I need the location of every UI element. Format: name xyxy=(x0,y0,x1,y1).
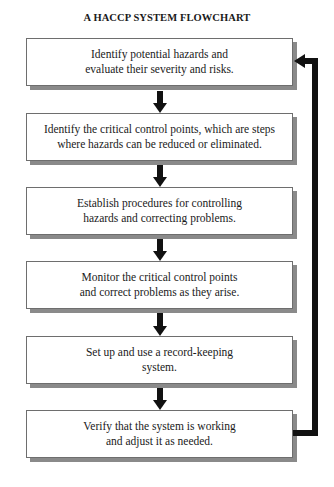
step-4-text: Monitor the critical control points and … xyxy=(80,270,240,300)
step-6-box: Verify that the system is working and ad… xyxy=(26,410,293,458)
down-arrow-icon xyxy=(155,239,165,261)
step-1-text: Identify potential hazards and evaluate … xyxy=(85,47,234,77)
step-2-box: Identify the critical control points, wh… xyxy=(26,113,293,161)
step-1-box: Identify potential hazards and evaluate … xyxy=(26,38,293,86)
down-arrow-icon xyxy=(155,91,165,113)
step-3-box: Establish procedures for controlling haz… xyxy=(26,187,293,235)
feedback-line-vertical xyxy=(312,58,318,436)
down-arrow-icon xyxy=(155,313,165,336)
flowchart-title: A HACCP SYSTEM FLOWCHART xyxy=(0,12,334,23)
step-3-text: Establish procedures for controlling haz… xyxy=(77,196,242,226)
left-arrow-icon xyxy=(294,54,305,68)
step-2-text: Identify the critical control points, wh… xyxy=(44,122,275,152)
step-5-box: Set up and use a record-keeping system. xyxy=(26,336,293,384)
down-arrow-icon xyxy=(155,388,165,410)
down-arrow-icon xyxy=(155,165,165,187)
step-5-text: Set up and use a record-keeping system. xyxy=(86,345,233,375)
step-4-box: Monitor the critical control points and … xyxy=(26,261,293,309)
step-6-text: Verify that the system is working and ad… xyxy=(83,419,235,449)
